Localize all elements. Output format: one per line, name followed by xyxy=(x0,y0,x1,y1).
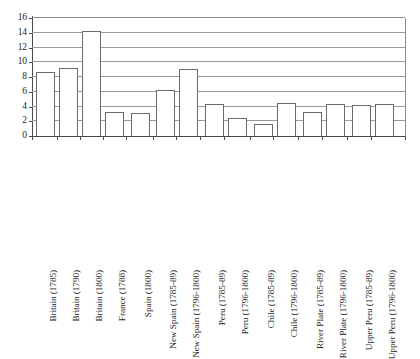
y-axis-tick-label: 0 xyxy=(8,131,27,141)
x-axis-category-label: Spain (1800) xyxy=(144,270,153,317)
bar xyxy=(352,105,371,136)
x-axis-ticks xyxy=(32,136,406,141)
y-axis-tick-label: 2 xyxy=(8,116,27,126)
x-axis-tick xyxy=(57,136,58,140)
bar xyxy=(277,103,296,136)
plot-right-border xyxy=(405,18,406,136)
x-axis-category-label: Upper Peru (1785-89) xyxy=(365,270,374,350)
x-axis-category-label: Peru (1796-1800) xyxy=(241,270,250,334)
y-axis-tick-label: 6 xyxy=(8,87,27,97)
x-axis-category-label: Britain (1790) xyxy=(72,270,81,322)
bar xyxy=(228,118,247,136)
plot-area xyxy=(32,18,405,136)
x-axis-tick xyxy=(405,136,406,140)
x-axis-category-labels: Britain (1785)Britain (1790)Britain (180… xyxy=(32,142,406,272)
bars-layer xyxy=(32,18,405,136)
y-axis-tick-label: 4 xyxy=(8,102,27,112)
y-axis-tick-label: 10 xyxy=(8,57,27,67)
x-axis-tick xyxy=(273,136,274,140)
bar xyxy=(82,31,101,136)
x-axis-category-label: New Spain (1785-89) xyxy=(169,270,178,349)
y-axis-tick-label: 12 xyxy=(8,43,27,53)
y-axis-tick-label: 16 xyxy=(8,13,27,23)
x-axis-tick xyxy=(80,136,81,140)
x-axis-category-label: River Plate (1785-89) xyxy=(316,270,325,349)
x-axis-category-label: River Plate (1796-1800) xyxy=(339,270,348,358)
x-axis-tick xyxy=(126,136,127,140)
x-axis-category-label: Britain (1800) xyxy=(95,270,104,322)
x-axis-tick xyxy=(176,136,177,140)
bar xyxy=(59,68,78,136)
y-axis-tick-label: 14 xyxy=(8,28,27,38)
x-axis-category-label: Britain (1785) xyxy=(49,270,58,322)
x-axis-tick xyxy=(32,136,33,140)
bar xyxy=(131,113,150,136)
x-axis-category-label: Upper Peru (1796-1800) xyxy=(388,270,397,359)
x-axis-category-label: France (1788) xyxy=(118,270,127,321)
x-axis-tick xyxy=(224,136,225,140)
bar xyxy=(326,104,345,136)
x-axis-category-label: Peru (1785-89) xyxy=(218,270,227,325)
bar xyxy=(156,90,175,136)
x-axis-category-label: New Spain (1796-1800) xyxy=(192,270,201,358)
x-axis-category-label: Chile (1796-1800) xyxy=(290,270,299,337)
bar xyxy=(375,104,394,136)
x-axis-tick xyxy=(103,136,104,140)
x-axis-tick xyxy=(250,136,251,140)
x-axis-tick xyxy=(347,136,348,140)
bar xyxy=(105,112,124,136)
x-axis-tick xyxy=(153,136,154,140)
x-axis-tick xyxy=(322,136,323,140)
bar xyxy=(303,112,322,136)
x-axis-tick xyxy=(298,136,299,140)
bar xyxy=(179,69,198,136)
bar xyxy=(254,124,273,136)
bar xyxy=(205,104,224,136)
x-axis-tick xyxy=(200,136,201,140)
y-axis-tick-label: 8 xyxy=(8,72,27,82)
x-axis-category-label: Chile (1785-89) xyxy=(267,270,276,328)
x-axis-tick xyxy=(371,136,372,140)
bar xyxy=(36,72,55,136)
